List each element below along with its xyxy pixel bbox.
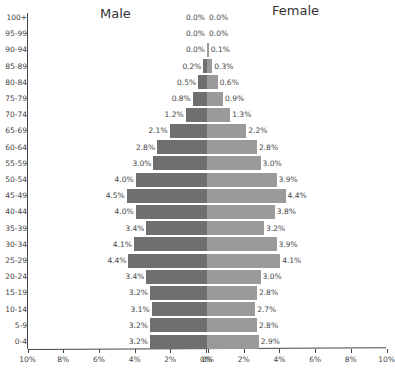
female-bar: [207, 140, 257, 154]
male-value-label: 3.2%: [129, 337, 148, 347]
female-bar: [207, 221, 264, 235]
male-value-label: 0.8%: [172, 94, 191, 104]
male-bar: [157, 140, 207, 154]
female-value-label: 3.0%: [263, 159, 282, 169]
x-tick: [28, 349, 29, 353]
y-tick-label: 5-9: [0, 321, 27, 331]
male-value-label: 3.1%: [131, 305, 150, 315]
female-value-label: 0.9%: [225, 94, 244, 104]
x-tick: [351, 349, 352, 353]
y-tick-label: 10-14: [0, 305, 27, 315]
x-tick: [170, 349, 171, 353]
male-bar: [150, 286, 207, 300]
female-bar: [207, 318, 257, 332]
male-value-label: 3.2%: [129, 321, 148, 331]
x-tick: [244, 349, 245, 353]
female-value-label: 0.0%: [209, 13, 228, 23]
female-value-label: 2.8%: [259, 288, 278, 298]
y-tick-label: 30-34: [0, 240, 27, 250]
female-value-label: 3.9%: [279, 240, 298, 250]
y-tick-label: 70-74: [0, 110, 27, 120]
y-tick-label: 40-44: [0, 207, 27, 217]
y-tick-label: 55-59: [0, 159, 27, 169]
y-tick-label: 100+: [0, 13, 27, 23]
male-bar: [146, 221, 207, 235]
female-value-label: 0.3%: [214, 62, 233, 72]
male-value-label: 3.0%: [132, 159, 151, 169]
population-pyramid-chart: Male Female 100+0.0%0.0%95-990.0%0.0%90-…: [0, 0, 395, 371]
y-tick-label: 25-29: [0, 256, 27, 266]
female-value-label: 4.1%: [282, 256, 301, 266]
x-tick-label: 2%: [238, 355, 250, 364]
female-bar: [207, 270, 261, 284]
male-bar: [153, 156, 207, 170]
x-tick-label: 10%: [19, 355, 36, 364]
y-tick-label: 90-94: [0, 45, 27, 55]
female-value-label: 3.0%: [263, 272, 282, 282]
male-bar: [198, 75, 207, 89]
female-bar: [207, 92, 223, 106]
female-bar: [207, 173, 277, 187]
male-value-label: 0.0%: [186, 13, 205, 23]
female-bar: [207, 43, 209, 57]
female-value-label: 2.9%: [261, 337, 280, 347]
male-bar: [193, 92, 207, 106]
male-bar: [136, 205, 207, 219]
x-tick: [315, 349, 316, 353]
male-bar: [134, 237, 207, 251]
female-bar: [207, 254, 280, 268]
female-value-label: 3.9%: [279, 175, 298, 185]
female-value-label: 3.8%: [277, 207, 296, 217]
y-tick-label: 0-4: [0, 337, 27, 347]
x-tick-label: 10%: [378, 355, 395, 364]
y-tick-label: 35-39: [0, 224, 27, 234]
male-value-label: 0.5%: [177, 78, 196, 88]
male-bar: [136, 173, 207, 187]
x-tick-label: 0%: [202, 355, 214, 364]
male-bar: [170, 124, 207, 138]
female-bar: [207, 302, 255, 316]
female-bar: [207, 108, 230, 122]
male-bar: [186, 108, 207, 122]
y-tick-label: 95-99: [0, 29, 27, 39]
y-tick-label: 20-24: [0, 272, 27, 282]
male-bar: [150, 318, 207, 332]
female-value-label: 1.3%: [232, 110, 251, 120]
female-bar: [207, 156, 261, 170]
x-tick: [279, 349, 280, 353]
y-axis-line: [27, 13, 28, 349]
x-tick: [387, 349, 388, 353]
female-bar: [207, 189, 286, 203]
y-tick-label: 50-54: [0, 175, 27, 185]
female-bar: [207, 335, 259, 349]
y-tick-label: 15-19: [0, 288, 27, 298]
x-tick-label: 8%: [345, 355, 357, 364]
female-bar: [207, 237, 277, 251]
y-tick-label: 65-69: [0, 126, 27, 136]
female-title: Female: [272, 3, 319, 18]
male-bar: [150, 335, 207, 349]
male-value-label: 0.0%: [186, 45, 205, 55]
male-value-label: 3.4%: [125, 224, 144, 234]
female-value-label: 0.0%: [209, 29, 228, 39]
y-tick-label: 60-64: [0, 143, 27, 153]
male-bar: [127, 189, 207, 203]
x-tick-label: 6%: [93, 355, 105, 364]
x-tick-label: 8%: [57, 355, 69, 364]
male-value-label: 2.1%: [148, 126, 167, 136]
female-value-label: 2.8%: [259, 321, 278, 331]
y-tick-label: 75-79: [0, 94, 27, 104]
x-tick: [206, 349, 207, 353]
female-value-label: 2.8%: [259, 143, 278, 153]
male-title: Male: [100, 6, 131, 21]
male-value-label: 1.2%: [165, 110, 184, 120]
y-tick-label: 45-49: [0, 191, 27, 201]
male-bar: [152, 302, 207, 316]
x-tick-label: 2%: [164, 355, 176, 364]
x-tick: [63, 349, 64, 353]
male-value-label: 4.0%: [115, 207, 134, 217]
female-bar: [207, 59, 212, 73]
female-value-label: 2.7%: [257, 305, 276, 315]
female-value-label: 0.6%: [220, 78, 239, 88]
female-value-label: 3.2%: [266, 224, 285, 234]
